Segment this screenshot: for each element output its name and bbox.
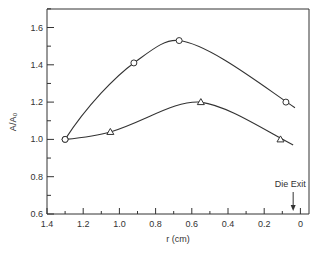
y-tick-label: 1.2 [30,97,43,107]
x-tick-label: 1.0 [113,219,126,229]
x-tick-label: 0.2 [258,219,271,229]
data-series [62,38,295,145]
triangles-curve [65,102,293,145]
x-tick-label: 0.8 [149,219,162,229]
x-tick-label: 0.6 [186,219,199,229]
chart: 1.41.21.00.80.60.40.20 0.60.81.01.21.41.… [0,0,317,255]
circle-marker [176,38,182,44]
x-tick-label: 1.2 [77,219,90,229]
y-tick-label: 0.8 [30,172,43,182]
circle-marker [283,99,289,105]
circles-curve [65,40,295,139]
x-tick-label: 0 [298,219,303,229]
y-axis-label: A/A₀ [8,113,18,132]
circle-marker [62,136,68,142]
x-axis: 1.41.21.00.80.60.40.20 [41,208,303,229]
x-axis-label: r (cm) [166,234,190,244]
die-exit-annotation: Die Exit [275,179,307,211]
x-tick-label: 0.4 [222,219,235,229]
y-tick-label: 1.4 [30,60,43,70]
y-tick-label: 0.6 [30,209,43,219]
die-exit-label: Die Exit [275,179,307,189]
y-tick-label: 1.0 [30,134,43,144]
circle-marker [131,60,137,66]
y-axis: 0.60.81.01.21.41.6 [30,9,54,219]
y-tick-label: 1.6 [30,23,43,33]
x-tick-label: 1.4 [41,219,54,229]
arrow-down-icon [291,205,296,211]
